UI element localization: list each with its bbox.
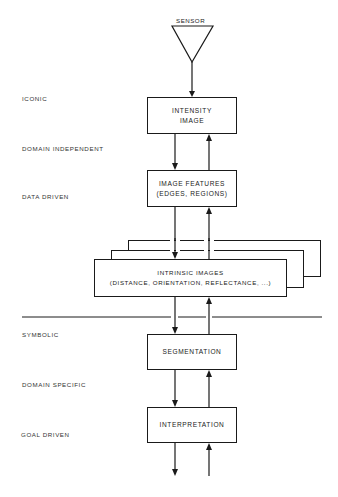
- segmentation-label: SEGMENTATION: [163, 347, 222, 357]
- interpretation-label: INTERPRETATION: [160, 420, 225, 430]
- figure-caption-cutoff: [40, 490, 300, 497]
- segmentation-box: SEGMENTATION: [147, 334, 237, 370]
- interpretation-box: INTERPRETATION: [147, 407, 237, 443]
